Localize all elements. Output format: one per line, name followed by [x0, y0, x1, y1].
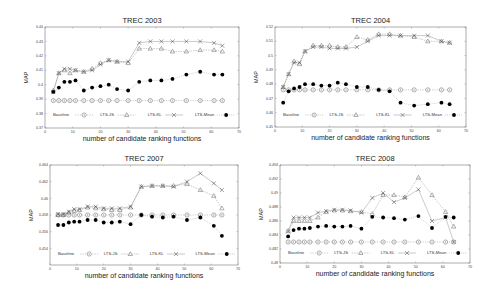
y-tick-label: 0.48: [271, 261, 278, 265]
x-tick-label: 40: [382, 129, 386, 133]
filled-marker-icon: [220, 73, 224, 77]
x-axis-label: number of candidate ranking functions: [83, 135, 202, 143]
filled-marker-icon: [456, 251, 460, 255]
triangle-marker-icon: [443, 210, 447, 214]
x-tick-label: 10: [71, 130, 75, 134]
filled-marker-icon: [90, 86, 94, 90]
series-lts-kl: [51, 39, 224, 94]
chart-trec-2008: TREC 20080102030405060700.480.4820.4840.…: [258, 154, 472, 278]
baseline-marker-icon: [348, 240, 352, 244]
filled-marker-icon: [161, 216, 165, 220]
legend-label: LTS-KL: [150, 251, 165, 256]
y-tick-label: 0.49: [271, 191, 278, 195]
x-tick-label: 60: [441, 265, 445, 269]
series-baseline: [51, 98, 224, 102]
y-tick-label: 0.43: [36, 40, 43, 44]
filled-marker-icon: [137, 80, 141, 84]
filled-marker-icon: [148, 78, 152, 82]
cross-marker-icon: [392, 200, 396, 204]
baseline-marker-icon: [412, 88, 416, 92]
baseline-marker-icon: [128, 213, 132, 217]
x-tick-label: 70: [464, 129, 468, 133]
filled-marker-icon: [297, 227, 301, 231]
legend-label: LTS-Mean: [427, 250, 447, 255]
chart-title: TREC 2008: [355, 154, 394, 163]
baseline-marker-icon: [370, 240, 374, 244]
y-tick-label: 0.454: [39, 247, 48, 251]
legend-label: LTS-JS: [330, 112, 344, 117]
filled-marker-icon: [344, 82, 348, 86]
filled-marker-icon: [99, 84, 103, 88]
x-tick-label: 70: [236, 267, 240, 271]
filled-marker-icon: [72, 220, 76, 224]
filled-marker-icon: [51, 90, 55, 94]
filled-marker-icon: [392, 216, 396, 220]
legend: BaselineLTS-JSLTS-KLLTS-Mean: [283, 112, 463, 117]
x-tick-label: 40: [155, 267, 159, 271]
chart-title: TREC 2003: [122, 16, 161, 25]
filled-marker-icon: [110, 221, 114, 225]
filled-marker-icon: [212, 224, 216, 228]
triangle-marker-icon: [137, 46, 141, 50]
series-baseline: [286, 240, 456, 244]
x-tick-label: 20: [102, 267, 106, 271]
cross-marker-icon: [359, 211, 363, 215]
filled-marker-icon: [311, 82, 315, 86]
chart-title: TREC 2004: [351, 16, 390, 25]
baseline-marker-icon: [68, 98, 72, 102]
chart-trec-2004: TREC 20040102030405060700.450.460.470.48…: [253, 16, 468, 142]
baseline-marker-icon: [118, 213, 122, 217]
cross-marker-icon: [370, 196, 374, 200]
filled-marker-icon: [115, 87, 119, 91]
filled-marker-icon: [426, 102, 430, 106]
filled-marker-icon: [78, 220, 82, 224]
baseline-marker-icon: [403, 240, 407, 244]
filled-marker-icon: [86, 218, 90, 222]
filled-marker-icon: [139, 213, 143, 217]
cross-marker-icon: [430, 219, 434, 223]
filled-marker-icon: [94, 218, 98, 222]
cross-marker-icon: [286, 230, 290, 234]
y-tick-label: 0.494: [269, 163, 278, 167]
baseline-marker-icon: [62, 98, 66, 102]
baseline-marker-icon: [443, 240, 447, 244]
baseline-marker-icon: [94, 213, 98, 217]
baseline-marker-icon: [324, 240, 328, 244]
y-tick-label: 0.482: [269, 247, 278, 251]
series-lts-js: [56, 182, 224, 217]
triangle-marker-icon: [212, 48, 216, 52]
y-tick-label: 0.458: [39, 213, 48, 217]
baseline-marker-icon: [110, 213, 114, 217]
x-tick-label: 40: [154, 130, 158, 134]
y-tick-label: 0.5: [268, 54, 273, 58]
filled-marker-icon: [349, 224, 353, 228]
legend-item-lts-js: LTS-JS: [100, 112, 135, 117]
series-baseline: [281, 88, 452, 92]
x-tick-label: 20: [98, 130, 102, 134]
x-tick-label: 70: [468, 265, 472, 269]
filled-marker-icon: [448, 102, 452, 106]
baseline-marker-icon: [381, 240, 385, 244]
y-axis-label: MAP: [28, 209, 34, 221]
y-tick-label: 0.47: [266, 97, 273, 101]
baseline-marker-icon: [82, 113, 86, 117]
filled-marker-icon: [74, 78, 78, 82]
filled-marker-icon: [292, 228, 296, 232]
baseline-marker-icon: [426, 88, 430, 92]
filled-marker-icon: [308, 226, 312, 230]
cross-marker-icon: [381, 191, 385, 195]
y-axis-label: MAP: [258, 208, 264, 220]
x-tick-label: 50: [409, 129, 413, 133]
baseline-marker-icon: [126, 98, 130, 102]
filled-marker-icon: [63, 80, 67, 84]
y-tick-label: 0.37: [36, 126, 43, 130]
filled-marker-icon: [107, 83, 111, 87]
y-tick-label: 0.46: [41, 197, 48, 201]
x-tick-label: 0: [274, 129, 276, 133]
filled-marker-icon: [281, 101, 285, 105]
baseline-marker-icon: [439, 88, 443, 92]
filled-marker-icon: [82, 89, 86, 93]
x-tick-label: 50: [182, 267, 186, 271]
filled-marker-icon: [129, 222, 133, 226]
x-tick-label: 20: [328, 129, 332, 133]
